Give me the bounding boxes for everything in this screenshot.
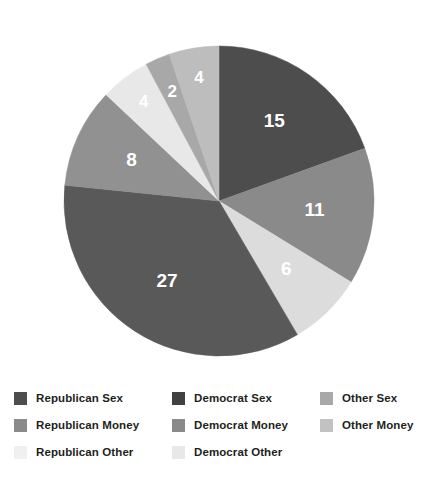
pie-chart-area: 15116278424 bbox=[0, 0, 432, 378]
legend-item-label: Democrat Sex bbox=[194, 392, 272, 404]
legend-item-label: Other Money bbox=[342, 419, 413, 431]
legend-item-label: Republican Sex bbox=[36, 392, 123, 404]
chart-legend: Republican SexRepublican MoneyRepublican… bbox=[0, 386, 432, 488]
legend-color-swatch bbox=[14, 392, 27, 405]
legend-item-label: Democrat Money bbox=[194, 419, 288, 431]
legend-item[interactable]: Republican Sex bbox=[14, 386, 164, 410]
legend-column-democrat: Democrat SexDemocrat MoneyDemocrat Other bbox=[172, 386, 312, 467]
legend-color-swatch bbox=[14, 446, 27, 459]
pie-slice-label: 8 bbox=[126, 149, 137, 170]
legend-item-label: Democrat Other bbox=[194, 446, 282, 458]
legend-color-swatch bbox=[172, 446, 185, 459]
legend-column-other: Other SexOther Money bbox=[320, 386, 430, 440]
legend-item[interactable]: Republican Other bbox=[14, 440, 164, 464]
legend-item[interactable]: Other Sex bbox=[320, 386, 430, 410]
pie-slice-label: 11 bbox=[305, 199, 326, 220]
pie-slice-label: 4 bbox=[194, 68, 204, 87]
legend-color-swatch bbox=[320, 419, 333, 432]
legend-item-label: Republican Other bbox=[36, 446, 133, 458]
legend-item[interactable]: Other Money bbox=[320, 413, 430, 437]
legend-color-swatch bbox=[320, 392, 333, 405]
pie-slice-label: 15 bbox=[264, 110, 286, 131]
legend-item-label: Other Sex bbox=[342, 392, 397, 404]
pie-chart-svg: 15116278424 bbox=[0, 0, 432, 378]
legend-item[interactable]: Democrat Sex bbox=[172, 386, 312, 410]
legend-item[interactable]: Republican Money bbox=[14, 413, 164, 437]
legend-item[interactable]: Democrat Other bbox=[172, 440, 312, 464]
pie-slice-label: 4 bbox=[139, 92, 149, 111]
legend-column-republican: Republican SexRepublican MoneyRepublican… bbox=[14, 386, 164, 467]
legend-color-swatch bbox=[14, 419, 27, 432]
legend-item[interactable]: Democrat Money bbox=[172, 413, 312, 437]
pie-slice-label: 27 bbox=[156, 270, 177, 291]
pie-slice-label: 6 bbox=[281, 258, 292, 279]
legend-item-label: Republican Money bbox=[36, 419, 139, 431]
legend-color-swatch bbox=[172, 419, 185, 432]
legend-color-swatch bbox=[172, 392, 185, 405]
pie-slice-label: 2 bbox=[168, 82, 177, 101]
chart-page: 15116278424 Republican SexRepublican Mon… bbox=[0, 0, 432, 488]
